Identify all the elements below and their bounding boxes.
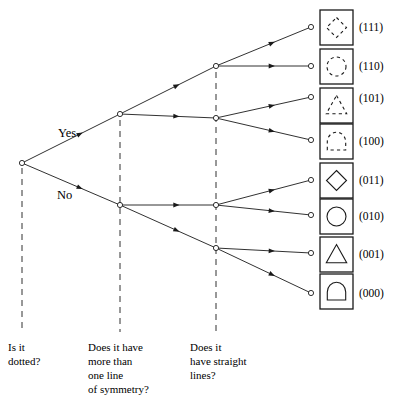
node-n-yn [213,115,218,120]
arrowhead-n-yn-to-leaf-100 [268,128,275,133]
node-n-ny [213,202,218,207]
tree-nodes [19,63,218,250]
leaf-node-010 [308,212,313,217]
arrowhead-root-to-no-node [76,184,83,189]
leaf-code-011: (011) [359,175,383,187]
arrowhead-n-yn-to-leaf-101 [268,104,275,109]
shape-boxes [320,10,353,309]
edge-yes-node-to-n-yy [120,66,216,114]
edge-n-nn-to-leaf-001 [216,248,311,253]
arrowhead-n-nn-to-leaf-000 [268,271,275,276]
shape-box-110 [320,49,353,84]
edge-n-ny-to-leaf-011 [216,180,311,205]
arrowhead-n-yy-to-leaf-111 [268,42,275,47]
node-no-node [117,202,122,207]
question-label-q2: Does it have more than one line of symme… [88,340,149,396]
tree-edges [22,27,311,293]
shape-box-111 [320,10,353,45]
edge-yes-node-to-n-yn [120,114,216,118]
arrowhead-root-to-yes-node [76,133,83,138]
shape-box-101 [320,88,353,123]
arrowhead-yes-node-to-n-yn [173,114,179,119]
shape-box-011 [320,163,353,198]
question-guide-lines [22,72,216,332]
arrowhead-n-ny-to-leaf-010 [268,208,274,213]
shape-box-100 [320,124,353,159]
leaf-code-000: (000) [359,288,384,300]
edge-n-yn-to-leaf-100 [216,118,311,140]
leaf-nodes [308,24,313,295]
node-yes-node [117,111,122,116]
decision-tree-diagram: YesNo (111)(110)(101)(100)(011)(010)(001… [0,0,405,401]
edge-n-ny-to-leaf-010 [216,205,311,215]
root-node [19,160,24,165]
node-n-yy [213,63,218,68]
leaf-node-000 [308,290,313,295]
arrowhead-n-nn-to-leaf-001 [269,248,275,253]
node-n-nn [213,245,218,250]
edge-n-yy-to-leaf-111 [216,27,311,66]
shape-box-001 [320,237,353,272]
edge-n-yn-to-leaf-101 [216,97,311,118]
arrowhead-n-yy-to-leaf-110 [269,64,275,69]
shape-box-010 [320,199,353,234]
arrowhead-no-node-to-n-nn [173,227,180,232]
leaf-code-101: (101) [359,93,384,105]
leaf-code-100: (100) [359,136,384,148]
edge-no-node-to-n-nn [120,205,216,248]
arrowhead-yes-node-to-n-yy [173,84,180,89]
leaf-node-111 [308,24,313,29]
question-label-q3: Does it have straight lines? [190,340,247,382]
branch-label-yes: Yes [58,127,76,140]
leaf-code-111: (111) [359,22,383,34]
leaf-node-101 [308,94,313,99]
leaf-code-010: (010) [359,211,384,223]
branch-label-no: No [57,189,72,202]
leaf-node-001 [308,250,313,255]
leaf-node-011 [308,177,313,182]
leaf-node-100 [308,137,313,142]
edge-arrowheads [76,42,275,276]
shape-box-000 [320,274,353,309]
leaf-code-110: (110) [359,61,383,73]
leaf-code-001: (001) [359,249,384,261]
question-label-q1: Is it dotted? [8,340,40,368]
edge-n-nn-to-leaf-000 [216,248,311,293]
arrowhead-n-ny-to-leaf-011 [268,189,275,194]
leaf-node-110 [308,63,313,68]
arrowhead-no-node-to-n-ny [173,203,179,208]
